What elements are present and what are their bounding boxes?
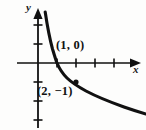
graph-figure: y x (1, 0) (2, −1) [0,0,146,130]
point-label-2-neg1: (2, −1) [37,85,73,98]
y-axis-arrowhead [33,8,42,19]
y-axis-label: y [26,2,31,13]
point-marker-2-neg1 [73,79,78,84]
x-axis-label: x [133,64,139,75]
coordinate-plot [0,0,146,130]
point-label-1-0: (1, 0) [56,39,84,52]
